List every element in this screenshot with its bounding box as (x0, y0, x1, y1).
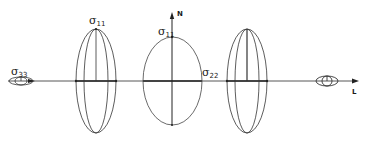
sigma-22-label: σ22 (202, 66, 218, 80)
l-axis-arrow-icon (352, 79, 359, 84)
n-axis-label: N (177, 10, 183, 18)
stress-ellipsoid-diagram: σ33 σ11 σ11 σ22 N L (0, 0, 367, 144)
l-axis-label: L (352, 88, 357, 96)
n-axis-arrow-icon (170, 12, 174, 19)
n-axis (170, 12, 174, 125)
sigma-11-left-label: σ11 (89, 14, 105, 28)
l-axis (8, 79, 359, 84)
sigma-33-label: σ33 (11, 65, 27, 79)
